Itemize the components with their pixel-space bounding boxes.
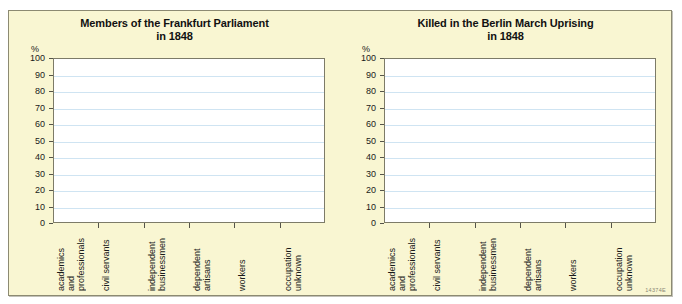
y-axis-tick-label: 30	[19, 169, 45, 179]
gridline	[385, 191, 655, 192]
x-axis-category-label: dependentartisans	[523, 225, 543, 291]
y-axis-tick-label: 90	[350, 70, 376, 80]
y-axis-tick-mark	[49, 108, 53, 109]
x-axis-category-label-line: and	[397, 225, 407, 291]
y-axis-tick-mark	[380, 223, 384, 224]
gridline	[54, 109, 324, 110]
x-axis-category-label-line: occupation	[614, 225, 624, 291]
y-axis-tick-label: 20	[19, 185, 45, 195]
x-axis-category-label-line: academics	[56, 225, 66, 291]
gridline	[54, 191, 324, 192]
y-axis-tick-label: 20	[350, 185, 376, 195]
y-axis-tick-label: 100	[19, 53, 45, 63]
y-axis-tick-label: 80	[350, 86, 376, 96]
gridline	[385, 158, 655, 159]
x-axis-tick-mark	[565, 223, 566, 228]
chart-title-line-2: in 1848	[9, 30, 340, 43]
x-axis-category-label-line: workers	[237, 225, 247, 291]
gridline	[54, 142, 324, 143]
y-axis-tick-mark	[49, 190, 53, 191]
x-axis-category-label-line: civil servants	[432, 225, 442, 291]
gridline	[54, 76, 324, 77]
y-axis-tick-mark	[49, 141, 53, 142]
x-axis-category-label-line: independent	[147, 225, 157, 291]
gridline	[385, 142, 655, 143]
y-axis-tick-label: 10	[350, 202, 376, 212]
x-axis-category-label-line: unknown	[293, 225, 303, 291]
gridline	[385, 208, 655, 209]
x-axis-tick-mark	[144, 223, 145, 228]
y-axis-tick-label: 50	[19, 136, 45, 146]
y-axis-tick-label: 50	[350, 136, 376, 146]
y-axis-tick-label: 10	[19, 202, 45, 212]
chart-title: Killed in the Berlin March Uprising in 1…	[340, 17, 671, 43]
x-axis-category-label-line: occupation	[283, 225, 293, 291]
x-axis-category-label: workers	[568, 225, 578, 291]
chart-frankfurt-parliament: Members of the Frankfurt Parliament in 1…	[9, 11, 340, 295]
y-axis-tick-mark	[49, 91, 53, 92]
x-axis-category-label: workers	[237, 225, 247, 291]
x-axis-category-label-line: dependent	[523, 225, 533, 291]
x-axis-category-label-line: businessmen	[157, 225, 167, 291]
x-axis-tick-mark	[234, 223, 235, 228]
y-axis-tick-mark	[49, 75, 53, 76]
gridline	[54, 125, 324, 126]
x-axis-category-label: occupationunknown	[283, 225, 303, 291]
plot-area	[384, 58, 656, 223]
x-axis-category-label-line: artisans	[202, 225, 212, 291]
gridline	[385, 92, 655, 93]
y-axis-tick-mark	[49, 207, 53, 208]
x-axis-category-label: academicsandprofessionals	[56, 225, 86, 291]
chart-title-line-1: Members of the Frankfurt Parliament	[9, 17, 340, 30]
x-axis-tick-mark	[189, 223, 190, 228]
x-axis-tick-mark	[611, 223, 612, 228]
y-axis-tick-mark	[49, 174, 53, 175]
y-axis-tick-mark	[380, 58, 384, 59]
y-axis-tick-mark	[380, 108, 384, 109]
y-axis-tick-mark	[49, 124, 53, 125]
x-axis-category-label: independentbusinessmen	[478, 225, 498, 291]
x-axis-category-label-line: dependent	[192, 225, 202, 291]
y-axis-tick-mark	[49, 223, 53, 224]
x-axis-category-label: occupationunknown	[614, 225, 634, 291]
chart-title-line-2: in 1848	[340, 30, 671, 43]
y-axis-tick-mark	[380, 91, 384, 92]
chart-title: Members of the Frankfurt Parliament in 1…	[9, 17, 340, 43]
gridline	[54, 175, 324, 176]
y-axis-tick-label: 100	[350, 53, 376, 63]
chart-title-line-1: Killed in the Berlin March Uprising	[340, 17, 671, 30]
y-axis-tick-mark	[49, 157, 53, 158]
x-axis-category-label-line: artisans	[533, 225, 543, 291]
x-axis-tick-mark	[98, 223, 99, 228]
x-axis-tick-mark	[280, 223, 281, 228]
y-axis-tick-mark	[380, 157, 384, 158]
x-axis-tick-mark	[475, 223, 476, 228]
x-axis-category-label-line: unknown	[624, 225, 634, 291]
gridline	[54, 158, 324, 159]
y-axis-tick-label: 30	[350, 169, 376, 179]
x-axis-category-label-line: professionals	[76, 225, 86, 291]
x-axis-category-label: independentbusinessmen	[147, 225, 167, 291]
gridline	[385, 76, 655, 77]
y-axis-tick-mark	[49, 58, 53, 59]
x-axis-tick-mark	[429, 223, 430, 228]
x-axis-category-label-line: and	[66, 225, 76, 291]
gridline	[385, 175, 655, 176]
gridline	[54, 92, 324, 93]
y-axis-tick-mark	[380, 207, 384, 208]
y-axis-tick-label: 60	[350, 119, 376, 129]
gridline	[385, 109, 655, 110]
charts-row: Members of the Frankfurt Parliament in 1…	[9, 11, 671, 295]
gridline	[385, 125, 655, 126]
x-axis-category-label-line: businessmen	[488, 225, 498, 291]
x-axis-category-label-line: independent	[478, 225, 488, 291]
y-axis-tick-mark	[380, 75, 384, 76]
y-axis-tick-label: 40	[19, 152, 45, 162]
y-axis-tick-label: 70	[19, 103, 45, 113]
gridline	[54, 208, 324, 209]
y-axis-tick-mark	[380, 174, 384, 175]
y-axis-tick-label: 0	[19, 218, 45, 228]
scan-artifact-text	[0, 0, 682, 7]
y-axis-tick-mark	[380, 124, 384, 125]
plot-area	[53, 58, 325, 223]
